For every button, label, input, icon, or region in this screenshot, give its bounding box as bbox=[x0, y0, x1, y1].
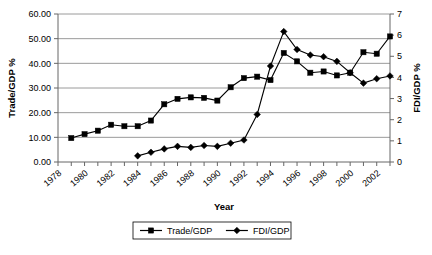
y2-tick-label: 6 bbox=[397, 30, 402, 40]
data-point-marker bbox=[161, 146, 168, 153]
data-point-marker bbox=[122, 124, 127, 129]
data-series bbox=[69, 28, 394, 159]
gridlines bbox=[58, 14, 390, 137]
data-point-marker bbox=[188, 144, 195, 151]
x-tick-label: 1984 bbox=[121, 168, 143, 189]
data-point-marker bbox=[387, 73, 394, 80]
y-tick-label: 60.00 bbox=[28, 9, 51, 19]
data-point-marker bbox=[281, 50, 286, 55]
data-point-marker bbox=[227, 140, 234, 147]
legend-marker-square bbox=[148, 228, 153, 233]
x-axis-title: Year bbox=[214, 201, 234, 212]
y2-tick-label: 1 bbox=[397, 136, 402, 146]
x-tick-label: 1980 bbox=[68, 168, 90, 189]
y-tick-label: 20.00 bbox=[28, 108, 51, 118]
x-tick-label: 2002 bbox=[360, 168, 382, 189]
x-tick-label: 1994 bbox=[254, 168, 276, 189]
line-chart: 0.0010.0020.0030.0040.0050.0060.00 01234… bbox=[0, 0, 432, 255]
y-tick-label: 0.00 bbox=[33, 157, 51, 167]
data-point-marker bbox=[321, 69, 326, 74]
data-point-marker bbox=[175, 96, 180, 101]
y-axis-tick-labels: 0.0010.0020.0030.0040.0050.0060.00 bbox=[28, 9, 51, 167]
x-tick-label: 1998 bbox=[307, 168, 329, 189]
legend-label: Trade/GDP bbox=[167, 226, 212, 236]
x-tick-label: 1990 bbox=[201, 168, 223, 189]
x-tick-label: 1992 bbox=[227, 168, 249, 189]
data-point-marker bbox=[188, 95, 193, 100]
series-fdi-gdp bbox=[134, 28, 393, 159]
y2-tick-label: 7 bbox=[397, 9, 402, 19]
data-point-marker bbox=[255, 74, 260, 79]
data-point-marker bbox=[214, 143, 221, 150]
data-point-marker bbox=[95, 128, 100, 133]
data-point-marker bbox=[374, 51, 379, 56]
data-point-marker bbox=[201, 142, 208, 149]
data-point-marker bbox=[308, 70, 313, 75]
y-tick-label: 10.00 bbox=[28, 133, 51, 143]
data-point-marker bbox=[162, 102, 167, 107]
data-point-marker bbox=[361, 50, 366, 55]
series-trade-gdp bbox=[69, 34, 393, 141]
data-point-marker bbox=[307, 52, 314, 59]
x-tick-label: 1988 bbox=[174, 168, 196, 189]
data-point-marker bbox=[228, 85, 233, 90]
y2-axis-tick-labels: 01234567 bbox=[397, 9, 402, 167]
y2-tick-label: 2 bbox=[397, 115, 402, 125]
x-axis-tickmarks bbox=[58, 162, 390, 166]
data-point-marker bbox=[387, 34, 392, 39]
x-tick-label: 1978 bbox=[42, 168, 64, 189]
y-axis-tickmarks bbox=[54, 14, 58, 162]
data-point-marker bbox=[320, 53, 327, 60]
data-point-marker bbox=[82, 132, 87, 137]
chart-legend: Trade/GDPFDI/GDP bbox=[133, 222, 291, 239]
data-point-marker bbox=[294, 59, 299, 64]
data-point-marker bbox=[148, 149, 155, 156]
y2-tick-label: 5 bbox=[397, 51, 402, 61]
data-point-marker bbox=[334, 73, 339, 78]
data-point-marker bbox=[268, 78, 273, 83]
data-point-marker bbox=[254, 111, 261, 118]
x-tick-label: 1982 bbox=[95, 168, 117, 189]
data-point-marker bbox=[69, 135, 74, 140]
chart-container: 0.0010.0020.0030.0040.0050.0060.00 01234… bbox=[0, 0, 432, 255]
data-point-marker bbox=[135, 124, 140, 129]
x-tick-label: 1996 bbox=[281, 168, 303, 189]
y-tick-label: 30.00 bbox=[28, 83, 51, 93]
x-tick-label: 1986 bbox=[148, 168, 170, 189]
data-point-marker bbox=[201, 95, 206, 100]
y2-tick-label: 0 bbox=[397, 157, 402, 167]
data-point-marker bbox=[174, 143, 181, 150]
y-tick-label: 50.00 bbox=[28, 34, 51, 44]
data-point-marker bbox=[109, 122, 114, 127]
y-tick-label: 40.00 bbox=[28, 59, 51, 69]
y-axis-title: Trade/GDP % bbox=[6, 58, 17, 118]
data-point-marker bbox=[148, 118, 153, 123]
legend-label: FDI/GDP bbox=[253, 226, 290, 236]
x-axis-tick-labels: 1978198019821984198619881990199219941996… bbox=[42, 168, 382, 189]
data-point-marker bbox=[215, 98, 220, 103]
y2-tick-label: 3 bbox=[397, 94, 402, 104]
x-tick-label: 2000 bbox=[334, 168, 356, 189]
data-point-marker bbox=[241, 76, 246, 81]
data-point-marker bbox=[134, 153, 141, 160]
y2-tick-label: 4 bbox=[397, 73, 402, 83]
data-point-marker bbox=[373, 75, 380, 82]
y2-axis-title: FDI/GDP % bbox=[411, 63, 422, 113]
